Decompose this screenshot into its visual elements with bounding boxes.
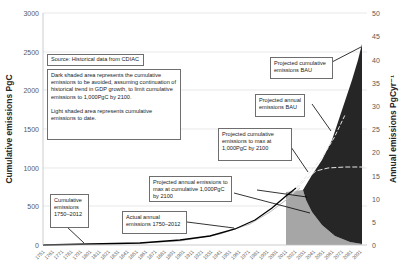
svg-text:2500: 2500 — [23, 49, 39, 56]
x-axis-ticks: 1751176117711781179118011811182118311841… — [34, 248, 363, 260]
svg-text:35: 35 — [372, 80, 380, 87]
svg-text:0: 0 — [35, 242, 39, 249]
svg-text:500: 500 — [27, 203, 39, 210]
svg-text:10: 10 — [372, 196, 380, 203]
y-axis-right-title: Annual emissions PgCyr⁻¹ — [388, 75, 398, 183]
actual-annual-note: Actual annual emissions 1750–2012 — [122, 211, 187, 234]
svg-text:15: 15 — [372, 173, 380, 180]
svg-text:45: 45 — [372, 33, 380, 40]
svg-text:1500: 1500 — [23, 126, 39, 133]
svg-text:1000: 1000 — [23, 165, 39, 172]
projected-annual-bau-note: Projected annual emissions BAU — [255, 94, 305, 117]
svg-text:2000: 2000 — [23, 87, 39, 94]
projected-cumulative-bau-note: Projected cumulative emissions BAU — [270, 57, 333, 79]
svg-text:5: 5 — [372, 219, 376, 226]
projected-cumulative-max-note: Projected cumulative emissions to max at… — [218, 128, 292, 161]
svg-text:3000: 3000 — [23, 10, 39, 17]
svg-text:20: 20 — [372, 149, 380, 156]
x-tick-label: 2091 — [351, 248, 363, 260]
svg-text:25: 25 — [372, 126, 380, 133]
svg-text:40: 40 — [372, 57, 380, 64]
y-axis-right-ticks: 0 5 10 15 20 25 30 35 40 45 50 — [372, 10, 380, 249]
svg-text:30: 30 — [372, 103, 380, 110]
svg-text:50: 50 — [372, 10, 380, 17]
y-axis-left-ticks: 0 500 1000 1500 2000 2500 3000 — [23, 10, 39, 249]
source-note: Source: Historical data from CDIAC — [47, 54, 144, 66]
cumulative-1750-note: Cumulative emissions 1750–2012 — [50, 194, 89, 228]
y-axis-left-title: Cumulative emissions PgC — [4, 74, 14, 183]
svg-text:0: 0 — [372, 242, 376, 249]
projected-annual-max-note: Projected annual emissions to max at cum… — [149, 176, 232, 202]
shaded-area-note: Dark shaded area represents the cumulati… — [47, 69, 181, 140]
